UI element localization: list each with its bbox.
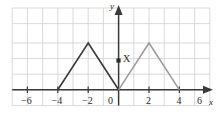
y-axis-arrowhead: [115, 5, 123, 15]
x-tick-label-6: 6: [197, 96, 202, 106]
x-tick-label-2: 2: [146, 96, 151, 106]
grid-lines: [12, 8, 210, 106]
x-tick-label--2: −2: [82, 96, 93, 106]
x-axis-arrowhead: [203, 86, 213, 94]
graph-figure: −6 −4 −2 0 2 4 6 x y X: [0, 0, 223, 122]
point-x-label: X: [123, 54, 130, 64]
y-axis-label: y: [110, 2, 114, 11]
x-tick-label-4: 4: [177, 96, 182, 106]
x-tick-label--4: −4: [52, 96, 63, 106]
point-x-marker: [116, 58, 120, 62]
x-tick-label--6: −6: [21, 96, 32, 106]
x-tick-label-0: 0: [108, 96, 113, 106]
x-axis-label: x: [209, 98, 213, 107]
